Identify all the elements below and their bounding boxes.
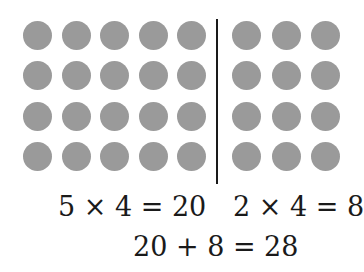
right-dot: [272, 142, 301, 171]
left-dot: [139, 142, 168, 171]
right-dot: [232, 102, 261, 131]
left-dot: [23, 142, 52, 171]
left-dot: [139, 102, 168, 131]
left-dot: [100, 61, 129, 90]
left-dot: [62, 142, 91, 171]
left-dot: [177, 21, 206, 50]
right-equation: 2 × 4 = 8: [233, 193, 364, 220]
left-dot: [100, 142, 129, 171]
left-dot: [139, 21, 168, 50]
left-dot: [139, 61, 168, 90]
left-dot: [62, 61, 91, 90]
left-dot: [177, 102, 206, 131]
divider-line: [216, 19, 218, 184]
right-dot: [311, 102, 340, 131]
right-dot: [311, 21, 340, 50]
left-dot: [23, 21, 52, 50]
left-dot: [100, 21, 129, 50]
total-equation: 20 + 8 = 28: [133, 233, 298, 260]
left-dot: [23, 102, 52, 131]
right-dot: [311, 61, 340, 90]
left-dot: [62, 21, 91, 50]
right-dot: [311, 142, 340, 171]
left-dot: [177, 142, 206, 171]
left-dot: [177, 61, 206, 90]
right-dot: [272, 61, 301, 90]
right-dot: [272, 21, 301, 50]
right-dot: [232, 142, 261, 171]
right-dot: [272, 102, 301, 131]
right-dot: [232, 21, 261, 50]
left-dot: [23, 61, 52, 90]
left-dot: [62, 102, 91, 131]
right-dot: [232, 61, 261, 90]
left-dot: [100, 102, 129, 131]
left-equation: 5 × 4 = 20: [58, 193, 206, 220]
